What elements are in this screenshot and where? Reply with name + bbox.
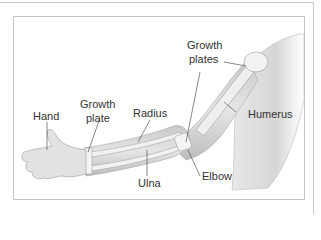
label-growth-plate-line2: plate: [86, 113, 110, 124]
label-growth-plates-top-line2: plates: [189, 54, 218, 65]
hand-shape: [22, 129, 86, 178]
label-ulna: Ulna: [138, 178, 161, 189]
label-humerus: Humerus: [248, 109, 293, 120]
humerus-head: [244, 52, 268, 72]
label-growth-plates-top-line1: Growth: [187, 40, 222, 51]
label-radius: Radius: [133, 108, 167, 119]
label-elbow: Elbow: [202, 171, 232, 182]
leader-growth-plates-top: [224, 62, 246, 66]
label-growth-plate-line1: Growth: [80, 99, 115, 110]
label-hand: Hand: [33, 111, 59, 122]
